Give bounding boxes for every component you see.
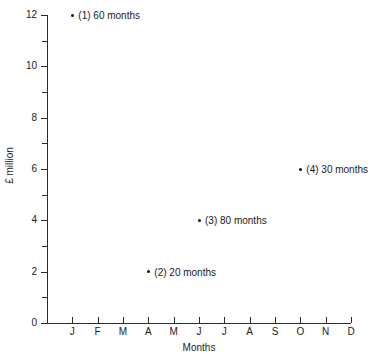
x-axis-tick-label: M <box>111 326 135 337</box>
x-axis-tick-label: A <box>136 326 160 337</box>
x-axis-tick <box>174 317 175 323</box>
y-axis-tick <box>41 169 47 170</box>
x-axis-tick <box>300 317 301 323</box>
data-point-3 <box>198 219 201 222</box>
y-axis-tick-label-text: 0 <box>0 318 37 328</box>
x-axis-tick <box>72 317 73 323</box>
x-axis-tick-label: S <box>263 326 287 337</box>
data-point-label-3: (3) 80 months <box>205 215 267 226</box>
data-point-label-1: (1) 60 months <box>78 10 140 21</box>
data-point-4 <box>299 168 302 171</box>
y-axis-tick-label-text: 2 <box>0 267 37 277</box>
y-axis-tick-label: 8 <box>0 113 37 123</box>
y-axis-minor-tick <box>42 143 47 144</box>
x-axis-tick-label: N <box>314 326 338 337</box>
x-axis-tick <box>199 317 200 323</box>
y-axis-tick-label-text: 8 <box>0 113 37 123</box>
x-axis-tick <box>98 317 99 323</box>
y-axis-tick-label: 12 <box>0 10 37 20</box>
x-axis-tick <box>123 317 124 323</box>
y-axis-tick <box>41 15 47 16</box>
y-axis-title: £ million <box>4 131 15 201</box>
y-axis-tick <box>41 118 47 119</box>
x-axis-tick-label: A <box>238 326 262 337</box>
x-axis-tick-label: J <box>60 326 84 337</box>
x-axis-tick <box>250 317 251 323</box>
y-axis-minor-tick <box>42 246 47 247</box>
x-axis-tick-label: D <box>339 326 363 337</box>
y-axis-tick-label: 10 <box>0 61 37 71</box>
x-axis-title: Months <box>47 342 351 353</box>
x-axis-tick <box>224 317 225 323</box>
y-axis-tick-label: 2 <box>0 267 37 277</box>
x-axis-tick-label: J <box>212 326 236 337</box>
y-axis-tick-label-text: 12 <box>0 10 37 20</box>
y-axis-minor-tick <box>42 92 47 93</box>
data-point-label-2: (2) 20 months <box>154 266 216 277</box>
x-axis-line <box>47 323 351 324</box>
scatter-chart: 024681012 JFMAMJJASOND (1) 60 months(2) … <box>0 0 386 361</box>
y-axis-minor-tick <box>42 41 47 42</box>
x-axis-tick-label: O <box>288 326 312 337</box>
y-axis-tick-label: 0 <box>0 318 37 328</box>
x-axis-tick <box>148 317 149 323</box>
data-point-1 <box>71 14 74 17</box>
y-axis-tick-label-text: 10 <box>0 61 37 71</box>
x-axis-tick-label: F <box>86 326 110 337</box>
y-axis-minor-tick <box>42 297 47 298</box>
data-point-label-4: (4) 30 months <box>306 164 368 175</box>
y-axis-tick <box>41 66 47 67</box>
x-axis-tick-label: J <box>187 326 211 337</box>
data-point-2 <box>147 270 150 273</box>
y-axis-line <box>47 15 48 324</box>
x-axis-tick <box>351 317 352 323</box>
y-axis-tick <box>41 272 47 273</box>
x-axis-tick <box>326 317 327 323</box>
y-axis-tick <box>41 220 47 221</box>
y-axis-tick-label-text: 4 <box>0 215 37 225</box>
x-axis-tick <box>275 317 276 323</box>
y-axis-tick-label: 4 <box>0 215 37 225</box>
x-axis-tick-label: M <box>162 326 186 337</box>
y-axis-tick <box>41 323 47 324</box>
y-axis-minor-tick <box>42 195 47 196</box>
